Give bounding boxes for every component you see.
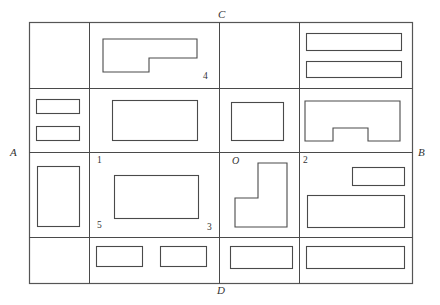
point-label-4: 4 xyxy=(203,71,208,81)
cell-r1c4-rect-top xyxy=(307,34,402,51)
cell-r4c2-rect-left xyxy=(97,247,143,267)
corner-label-c: C xyxy=(218,8,225,20)
point-label-1: 1 xyxy=(97,155,102,165)
cell-r3c4-rect-bottom xyxy=(308,196,405,228)
cell-r3c2-rect xyxy=(115,176,199,219)
corner-label-a: A xyxy=(10,146,17,158)
cell-r4c2-rect-right xyxy=(161,247,207,267)
cell-r1c4-rect-bottom xyxy=(307,62,402,78)
cell-r2c2-rect xyxy=(113,101,198,141)
point-label-3: 3 xyxy=(207,222,212,232)
cell-r3c3-reverse-l xyxy=(235,163,287,227)
corner-label-b: B xyxy=(418,146,425,158)
cell-r3c1-rect xyxy=(38,167,80,227)
shape-layer xyxy=(37,34,405,269)
point-label-2: 2 xyxy=(303,155,308,165)
cell-r2c1-rect-bottom xyxy=(37,127,80,141)
cell-r2c3-rect xyxy=(232,103,284,141)
point-label-5: 5 xyxy=(97,220,102,230)
cell-r3c4-rect-top xyxy=(353,168,405,186)
floor-plan-svg xyxy=(0,0,440,305)
cell-r4c3-rect xyxy=(231,247,293,269)
corner-label-d: D xyxy=(217,284,225,296)
cell-r4c4-rect xyxy=(307,247,405,269)
point-label-o: O xyxy=(232,155,239,166)
cell-r2c1-rect-top xyxy=(37,100,80,114)
cell-r1c2-l-shape xyxy=(103,39,197,72)
diagram-canvas: CABD41O253 xyxy=(0,0,440,305)
cell-r2c4-notched xyxy=(305,101,400,141)
